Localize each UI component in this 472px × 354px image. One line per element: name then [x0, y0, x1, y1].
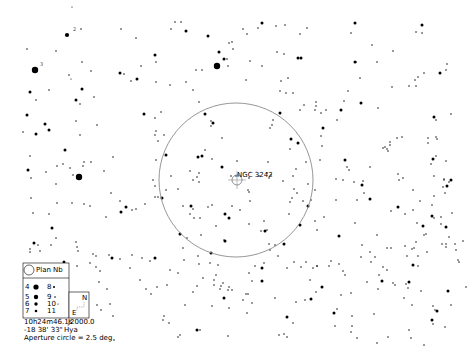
star [199, 217, 201, 219]
star [89, 262, 91, 264]
star [106, 288, 108, 290]
star [224, 240, 227, 243]
star [446, 63, 448, 65]
star [26, 114, 29, 117]
star [183, 259, 185, 261]
star [447, 290, 450, 293]
star [226, 58, 228, 60]
star [219, 288, 221, 290]
star [202, 277, 204, 279]
star [408, 329, 410, 331]
star [157, 196, 159, 198]
star [165, 189, 167, 191]
star [369, 166, 371, 168]
star [362, 180, 364, 182]
star [462, 240, 464, 242]
star [319, 159, 321, 161]
star [144, 203, 146, 205]
star [422, 225, 425, 228]
star [245, 79, 247, 81]
star [445, 243, 447, 245]
star [334, 325, 336, 327]
star [432, 305, 434, 307]
star [204, 149, 206, 151]
star [382, 147, 384, 149]
star [170, 28, 172, 30]
star [79, 103, 81, 105]
star [75, 241, 77, 243]
star [129, 267, 131, 269]
star [314, 109, 316, 111]
star [155, 130, 157, 132]
star [103, 170, 105, 172]
star [198, 181, 200, 183]
star [231, 205, 233, 207]
legend-star-mag-4 [33, 284, 38, 289]
target-dec: -18 38' 33" [24, 326, 63, 334]
star [90, 70, 92, 72]
star [340, 109, 343, 112]
star [169, 84, 171, 86]
star [184, 304, 186, 306]
star [185, 30, 188, 33]
star [95, 266, 97, 268]
star [246, 312, 248, 314]
star [423, 344, 425, 346]
star [306, 27, 308, 29]
star [432, 158, 435, 161]
star [435, 155, 437, 157]
star [204, 113, 207, 116]
star [223, 58, 226, 61]
star [231, 289, 233, 291]
star [421, 24, 424, 27]
star [192, 208, 194, 210]
star [192, 89, 194, 91]
star [195, 69, 197, 71]
star [441, 243, 443, 245]
star-chart[interactable]: 3 2 NGC 3242 Plan Nb 4 5 6 7 8 9 10 11 N… [0, 0, 472, 354]
star [30, 197, 32, 199]
star [322, 127, 325, 130]
star [201, 155, 204, 158]
star [185, 81, 187, 83]
star [55, 237, 57, 239]
star [353, 181, 355, 183]
star [119, 258, 121, 260]
star [257, 27, 259, 29]
star [99, 270, 101, 272]
star [32, 67, 38, 73]
star [197, 255, 199, 257]
star [150, 293, 152, 295]
star [304, 299, 306, 301]
star [112, 156, 114, 158]
planetary-nebula-symbol-icon [24, 265, 34, 275]
star [443, 179, 445, 181]
star [207, 206, 209, 208]
star [96, 304, 98, 306]
star [325, 109, 327, 111]
star [210, 120, 212, 122]
legend-object-type: Plan Nb [36, 266, 63, 274]
star [247, 293, 249, 295]
star [454, 243, 456, 245]
star [264, 230, 267, 233]
star [198, 172, 200, 174]
star [170, 175, 172, 177]
star [266, 229, 268, 231]
star [450, 179, 453, 182]
star [166, 284, 168, 286]
star [377, 288, 379, 290]
star [406, 255, 408, 257]
legend-mag-4: 4 [25, 283, 30, 291]
star [286, 336, 288, 338]
star [55, 183, 57, 185]
star [455, 249, 457, 251]
star [356, 199, 358, 201]
star [189, 213, 191, 215]
star [228, 42, 230, 44]
star [346, 166, 348, 168]
star [392, 282, 394, 284]
star [48, 129, 51, 132]
star [154, 134, 156, 136]
star [415, 31, 417, 33]
